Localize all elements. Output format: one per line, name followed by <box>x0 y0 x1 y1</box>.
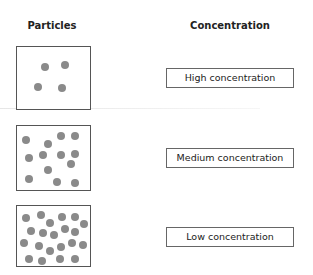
particle-dot <box>25 175 33 183</box>
particle-dot <box>71 228 79 236</box>
particle-dot <box>22 214 30 222</box>
particle-dot <box>71 150 79 158</box>
particle-box <box>16 46 91 110</box>
particle-dot <box>68 239 76 247</box>
particle-dot <box>25 154 33 162</box>
particle-dot <box>20 239 28 247</box>
particle-dot <box>22 136 30 144</box>
particle-dot <box>67 160 75 168</box>
particle-dot <box>50 231 58 239</box>
particle-dot <box>35 242 43 250</box>
particle-dot <box>61 225 69 233</box>
particle-dot <box>39 229 47 237</box>
concentration-label-box[interactable]: High concentration <box>166 68 294 88</box>
particle-dot <box>71 179 79 187</box>
particle-dot <box>44 140 52 148</box>
particle-dot <box>46 247 54 255</box>
particle-dot <box>44 166 52 174</box>
particle-dot <box>71 255 79 263</box>
particle-dot <box>71 213 79 221</box>
particle-dot <box>57 243 65 251</box>
particle-dot <box>56 255 64 263</box>
particle-dot <box>61 61 69 69</box>
particle-dot <box>38 257 46 265</box>
particle-dot <box>39 151 47 159</box>
particle-dot <box>46 219 54 227</box>
particles-header: Particles <box>22 20 82 31</box>
particle-dot <box>71 132 79 140</box>
particle-box <box>16 205 91 267</box>
particle-dot <box>27 227 35 235</box>
concentration-label-box[interactable]: Medium concentration <box>166 148 294 168</box>
concentration-header: Concentration <box>190 20 270 31</box>
particle-box <box>16 125 91 191</box>
particle-dot <box>58 84 66 92</box>
particle-dot <box>41 63 49 71</box>
particle-dot <box>57 132 65 140</box>
particle-dot <box>37 211 45 219</box>
particle-dot <box>80 220 88 228</box>
particle-dot <box>53 178 61 186</box>
particle-dot <box>25 255 33 263</box>
particle-dot <box>57 151 65 159</box>
particle-dot <box>79 241 87 249</box>
particle-dot <box>58 213 66 221</box>
concentration-label-box[interactable]: Low concentration <box>166 227 294 247</box>
particle-dot <box>34 83 42 91</box>
